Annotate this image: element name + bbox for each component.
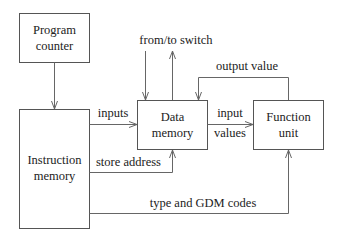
program-counter-label-line2: counter — [36, 39, 74, 53]
pc-to-instruction-memory-arrow — [52, 63, 58, 110]
inputs-arrow: inputs — [90, 106, 138, 128]
function-unit-label-line1: Function — [266, 110, 311, 124]
from-to-switch-arrows: from/to switch — [139, 33, 213, 100]
from-to-switch-label: from/to switch — [139, 33, 213, 47]
instruction-memory-label-line1: Instruction — [27, 153, 82, 167]
store-address-arrow: store address — [90, 150, 176, 173]
input-values-arrow: input values — [208, 106, 254, 140]
program-counter-label-line1: Program — [33, 23, 76, 37]
data-memory-block: Data memory — [138, 101, 208, 150]
program-counter-block: Program counter — [20, 14, 90, 63]
input-values-label-line1: input — [217, 106, 243, 120]
instruction-memory-label-line2: memory — [34, 169, 76, 183]
data-memory-label-line1: Data — [161, 110, 185, 124]
processor-block-diagram: Program counter Instruction memory Data … — [0, 0, 339, 244]
data-memory-label-line2: memory — [152, 126, 194, 140]
output-value-arrow: output value — [196, 59, 289, 100]
type-gdm-codes-label: type and GDM codes — [150, 196, 257, 210]
input-values-label-line2: values — [214, 126, 246, 140]
output-value-label: output value — [216, 59, 279, 73]
function-unit-block: Function unit — [254, 101, 324, 150]
store-address-label: store address — [96, 155, 161, 169]
inputs-label: inputs — [98, 106, 129, 120]
function-unit-label-line2: unit — [279, 126, 299, 140]
instruction-memory-block: Instruction memory — [20, 110, 90, 229]
